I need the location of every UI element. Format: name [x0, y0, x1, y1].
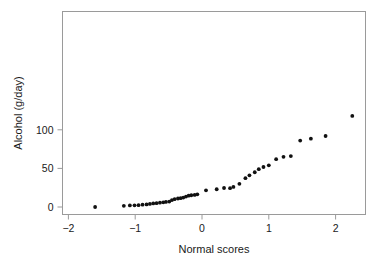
data-point — [324, 134, 328, 138]
y-tick-label: 0 — [48, 201, 54, 213]
y-tick-label: 100 — [36, 124, 54, 136]
qq-plot-figure: −2−1012 050100 Normal scores Alcohol (g/… — [0, 0, 383, 265]
x-tick-label: 1 — [266, 222, 272, 234]
data-point — [122, 204, 126, 208]
data-point — [257, 167, 261, 171]
data-point — [145, 202, 149, 206]
x-tick-label: −2 — [62, 222, 74, 234]
y-tick-label: 50 — [42, 162, 54, 174]
data-point — [253, 170, 257, 174]
data-point — [189, 193, 193, 197]
x-tick-label: −1 — [129, 222, 141, 234]
data-point — [350, 114, 354, 118]
data-point — [232, 185, 236, 189]
x-axis-ticks: −2−1012 — [62, 215, 338, 234]
data-point — [222, 186, 226, 190]
data-point — [173, 197, 177, 201]
data-point — [133, 203, 137, 207]
plot-frame — [63, 12, 366, 215]
y-axis-ticks: 050100 — [36, 124, 63, 213]
data-point — [274, 157, 278, 161]
data-point — [93, 205, 97, 209]
scatter-points — [93, 114, 354, 209]
data-point — [148, 202, 152, 206]
x-tick-label: 0 — [199, 222, 205, 234]
data-point — [248, 173, 252, 177]
data-point — [228, 186, 232, 190]
data-point — [282, 155, 286, 159]
data-point — [164, 200, 168, 204]
data-point — [195, 192, 199, 196]
y-axis-label: Alcohol (g/day) — [12, 76, 24, 149]
data-point — [244, 176, 248, 180]
data-point — [215, 187, 219, 191]
data-point — [298, 139, 302, 143]
data-point — [128, 204, 132, 208]
data-point — [137, 203, 141, 207]
plot-area-border — [63, 12, 366, 215]
data-point — [151, 202, 155, 206]
x-axis-label: Normal scores — [179, 243, 250, 255]
data-point — [204, 188, 208, 192]
data-point — [238, 182, 242, 186]
data-point — [289, 154, 293, 158]
data-point — [155, 201, 159, 205]
data-point — [262, 165, 266, 169]
data-point — [309, 137, 313, 141]
data-point — [141, 203, 145, 207]
data-point — [267, 163, 271, 167]
x-tick-label: 2 — [333, 222, 339, 234]
data-point — [158, 201, 162, 205]
